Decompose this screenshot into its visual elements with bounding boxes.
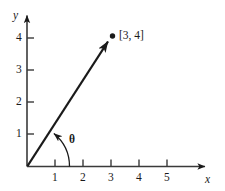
x-tick-label-2: 2 xyxy=(80,172,86,184)
x-tick-label-4: 4 xyxy=(136,172,142,184)
diagram-canvas xyxy=(0,0,225,191)
x-tick-label-3: 3 xyxy=(108,172,114,184)
vector-point-label: [3, 4] xyxy=(119,30,144,42)
angle-theta-label: θ xyxy=(69,134,75,146)
x-axis-ticks xyxy=(55,160,167,167)
x-tick-label-1: 1 xyxy=(52,172,58,184)
angle-arc xyxy=(54,134,70,167)
vector-endpoint-dot xyxy=(110,33,115,38)
y-axis-ticks xyxy=(27,38,34,134)
x-axis-label: x xyxy=(205,174,210,186)
y-tick-label-1: 1 xyxy=(16,128,22,140)
x-tick-label-5: 5 xyxy=(164,172,170,184)
y-tick-label-3: 3 xyxy=(16,64,22,76)
y-tick-label-2: 2 xyxy=(16,96,22,108)
vector-diagram-figure: y x 1 2 3 4 1 2 3 4 5 [3, 4] θ xyxy=(0,0,225,191)
y-axis-label: y xyxy=(13,10,18,22)
y-tick-label-4: 4 xyxy=(16,32,22,44)
vector-arrow xyxy=(28,42,109,167)
